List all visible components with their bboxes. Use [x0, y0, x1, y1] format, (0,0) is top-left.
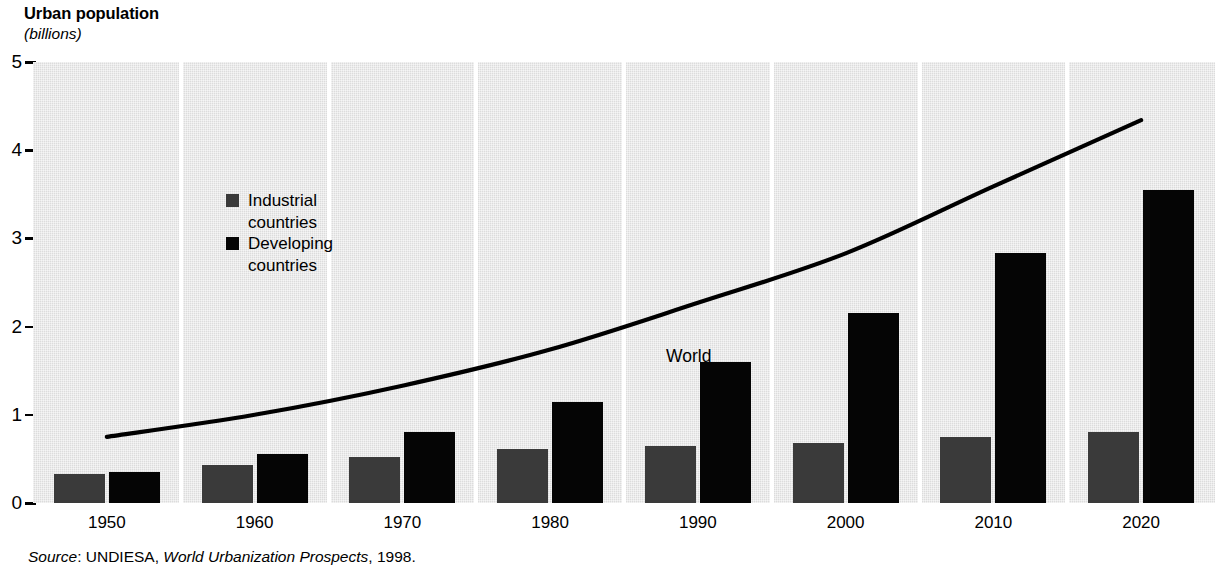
- source-label: Source: [28, 548, 77, 565]
- chart-subtitle: (billions): [24, 25, 82, 43]
- x-tick-label-1950: 1950: [88, 514, 126, 532]
- x-tick-label-1960: 1960: [236, 514, 274, 532]
- bar-industrial-1990: [645, 446, 696, 503]
- bar-industrial-1960: [202, 465, 253, 503]
- bar-developing-2020: [1143, 190, 1194, 503]
- bar-industrial-2020: [1088, 432, 1139, 503]
- y-tick-label: 4: [0, 140, 22, 159]
- page-title: Urban population: [24, 4, 159, 23]
- column-separator: [918, 62, 922, 503]
- source-work: World Urbanization Prospects: [163, 548, 368, 565]
- industrial-swatch-icon: [226, 194, 239, 207]
- bar-industrial-2010: [940, 437, 991, 503]
- legend-item-label: Developing countries: [248, 233, 333, 276]
- y-tick-label: 1: [0, 405, 22, 424]
- bar-developing-1990: [700, 362, 751, 503]
- bar-industrial-1970: [349, 457, 400, 503]
- bar-developing-1980: [552, 402, 603, 503]
- source-year: , 1998.: [368, 548, 415, 565]
- column-separator: [474, 62, 478, 503]
- x-tick-label-1970: 1970: [383, 514, 421, 532]
- developing-swatch-icon: [226, 237, 239, 250]
- bar-industrial-1950: [54, 474, 105, 503]
- x-tick-label-1980: 1980: [531, 514, 569, 532]
- y-tick-label: 0: [0, 493, 22, 512]
- source-note: Source: UNDIESA, World Urbanization Pros…: [28, 548, 416, 566]
- bar-developing-2010: [995, 253, 1046, 503]
- y-tick-label: 2: [0, 317, 22, 336]
- source-separator: :: [77, 548, 86, 565]
- x-tick-label-1990: 1990: [679, 514, 717, 532]
- y-tick-label: 5: [0, 52, 22, 71]
- plot-area: Industrial countriesDeveloping countries…: [33, 62, 1215, 503]
- legend-item-developing: Developing countries: [226, 233, 333, 276]
- bar-developing-2000: [848, 313, 899, 503]
- bar-developing-1960: [257, 454, 308, 503]
- bar-developing-1970: [404, 432, 455, 503]
- legend-item-label: Industrial countries: [248, 190, 317, 233]
- bar-developing-1950: [109, 472, 160, 503]
- column-separator: [327, 62, 331, 503]
- source-publisher: UNDIESA,: [86, 548, 164, 565]
- column-separator: [1065, 62, 1069, 503]
- bar-industrial-2000: [793, 443, 844, 503]
- x-tick-label-2010: 2010: [974, 514, 1012, 532]
- legend: Industrial countriesDeveloping countries: [226, 190, 333, 276]
- legend-item-industrial: Industrial countries: [226, 190, 333, 233]
- x-tick-label-2000: 2000: [827, 514, 865, 532]
- y-tick-label: 3: [0, 228, 22, 247]
- column-separator: [179, 62, 183, 503]
- world-line-label: World: [666, 346, 711, 367]
- x-tick-label-2020: 2020: [1122, 514, 1160, 532]
- chart-figure: Urban population (billions) 012345 19501…: [0, 0, 1215, 573]
- column-separator: [622, 62, 626, 503]
- column-separator: [770, 62, 774, 503]
- bar-industrial-1980: [497, 449, 548, 503]
